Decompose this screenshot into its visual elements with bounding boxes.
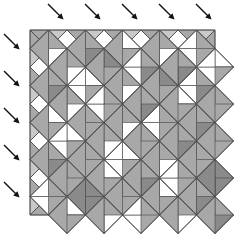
figure-root — [0, 0, 239, 234]
tiles-layer — [30, 30, 234, 234]
lattice-diagram-svg — [0, 0, 239, 234]
